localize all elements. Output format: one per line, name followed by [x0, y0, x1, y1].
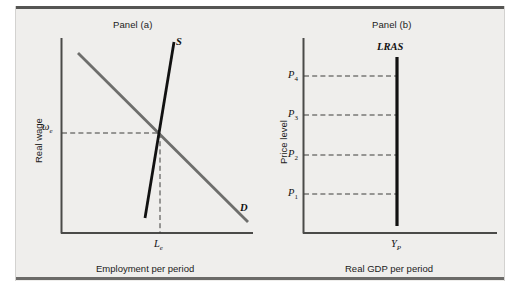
panel-a-axes [61, 38, 253, 234]
potential-output-subscript: P [397, 244, 401, 252]
price-level-tick-p3: P3 [288, 108, 298, 122]
panel-b-axes [303, 38, 497, 234]
price-level-subscript-p3: 3 [294, 114, 298, 122]
panel-b-x-axis-label: Real GDP per period [345, 263, 433, 274]
price-level-subscript-p2: 2 [294, 154, 298, 162]
panel-b-price-guides [304, 76, 397, 194]
equilibrium-wage-tick: ωe [42, 121, 53, 135]
price-level-tick-p1: P1 [288, 187, 298, 201]
equilibrium-employment-tick: Le [154, 238, 163, 252]
equilibrium-wage-subscript: e [49, 127, 52, 135]
lras-curve-label: LRAS [377, 41, 403, 52]
potential-output-tick: YP [391, 238, 401, 252]
panel-a-x-axis-label: Employment per period [96, 263, 194, 274]
price-level-subscript-p1: 1 [294, 193, 298, 201]
demand-curve-label: D [240, 202, 248, 213]
panel-a-title: Panel (a) [113, 19, 152, 30]
price-level-tick-p4: P4 [288, 69, 298, 83]
price-level-subscript-p4: 4 [294, 75, 298, 83]
figure-container: Panel (a) Panel (b) Employment per perio… [0, 0, 514, 298]
labor-demand-curve [78, 53, 248, 222]
price-level-tick-p2: P2 [288, 148, 298, 162]
plot-svg [0, 0, 514, 298]
equilibrium-employment-subscript: e [160, 244, 163, 252]
supply-curve-label: S [176, 36, 182, 47]
panel-b-title: Panel (b) [372, 19, 411, 30]
